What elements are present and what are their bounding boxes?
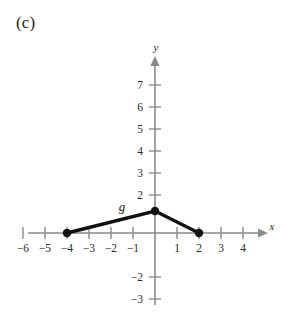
x-tick-label: −1 [127,242,139,254]
x-tick-label: 3 [218,242,224,254]
series-g-point [151,207,159,215]
x-tick-label: −2 [105,242,117,254]
series-g-point [195,229,203,237]
series-g-point [63,229,71,237]
y-tick-label: −3 [131,293,143,305]
x-axis-arrowhead [258,228,268,237]
coordinate-plot: −6 −5 −4 −3 −2 −1 1 2 3 4 x [0,0,284,321]
x-axis: −6 −5 −4 −3 −2 −1 1 2 3 4 x [17,220,275,254]
y-tick-label: 2 [137,189,143,201]
y-tick-label: 3 [137,167,143,179]
y-axis-label: y [153,41,159,53]
x-axis-label: x [269,220,275,232]
y-tick-label: 6 [137,101,143,113]
y-tick-label: 5 [137,123,143,135]
y-axis: 7 6 5 4 3 2 −2 −3 y [131,41,161,305]
y-axis-arrowhead [150,56,159,66]
y-tick-label: 4 [137,145,143,157]
x-tick-label: −4 [61,242,73,254]
x-tick-label: 4 [240,242,246,254]
y-tick-label: −2 [131,271,143,283]
figure-container: (c) −6 −5 −4 −3 −2 [0,0,284,321]
x-tick-label: −5 [39,242,51,254]
y-tick-label: 7 [137,79,143,91]
x-tick-label: −3 [83,242,95,254]
x-tick-label: −6 [17,242,29,254]
x-tick-label: 2 [196,242,202,254]
series-g-label: g [119,199,126,214]
x-tick-label: 1 [174,242,180,254]
